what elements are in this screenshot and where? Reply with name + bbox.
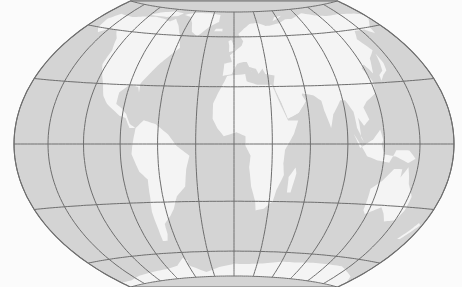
world-map (0, 0, 462, 287)
world-map-svg (0, 0, 462, 287)
